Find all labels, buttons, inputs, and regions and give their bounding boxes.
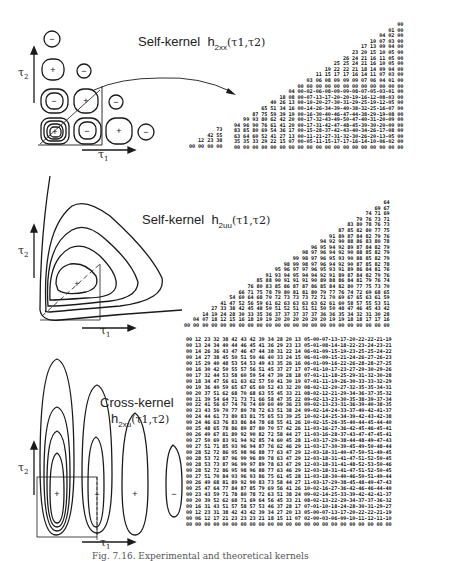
axis-label-tau2: τ2 (18, 66, 29, 81)
sign-minus-icon: − (143, 127, 148, 137)
sign-minus-icon: − (84, 126, 89, 136)
figure-caption: Fig. 7.16. Experimental and theoretical … (92, 551, 309, 561)
panel-self-kernel-xx: − + − − + − + − + − τ2 τ1 Self-kernel h2… (0, 0, 461, 160)
sign-plus-icon: + (83, 96, 88, 106)
sign-minus-icon: − (51, 96, 56, 106)
sign-minus-icon: − (94, 489, 99, 499)
kernel-args: (τ1,τ2) (131, 413, 169, 426)
sign-minus-icon: − (49, 34, 54, 44)
kernel-table-xx: 00 01 00 04 02 00 10 07 03 00 (228, 22, 403, 151)
title-text: Cross-kernel (100, 395, 174, 410)
sign-plus-icon: + (54, 489, 59, 499)
panel-subtitle: h2xu(τ1,τ2) (111, 411, 169, 429)
axis-label-tau1: τ1 (100, 536, 111, 551)
sign-plus-icon: + (132, 489, 137, 499)
sign-minus-icon: − (81, 66, 86, 76)
axis-label-tau2: τ2 (18, 461, 29, 476)
kernel-subscript: 2xx (215, 43, 227, 52)
title-text: Self-kernel (138, 34, 200, 49)
kernel-table-left: 73 42 55 12 23 38 00 00 00 00 (186, 127, 222, 149)
kernel-table-xu: 00 12 23 32 38 42 43 42 39 34 28 20 13 0… (186, 337, 392, 528)
axis-label-tau2: τ2 (18, 244, 29, 259)
sign-minus-icon: − (113, 97, 118, 107)
kernel-subscript: 2xu (118, 420, 131, 429)
sign-plus-icon: + (74, 279, 79, 289)
kernel-symbol: h (207, 34, 214, 49)
sign-minus-icon: − (171, 489, 176, 499)
panel-cross-kernel-xu: + − + − τ2 τ1 Cross-kernel h2xu(τ1,τ2) 0… (0, 335, 461, 550)
kernel-table-uu: 64 69 67 74 71 69 79 (184, 200, 390, 329)
panel-self-kernel-uu: + τ2 τ1 Self-kernel h2uu(τ1,τ2) 64 69 67 (0, 160, 461, 335)
sign-plus-icon: + (52, 127, 57, 137)
panel-title: Cross-kernel (100, 395, 174, 410)
sign-plus-icon: + (50, 65, 55, 75)
sign-plus-icon: + (116, 126, 121, 136)
